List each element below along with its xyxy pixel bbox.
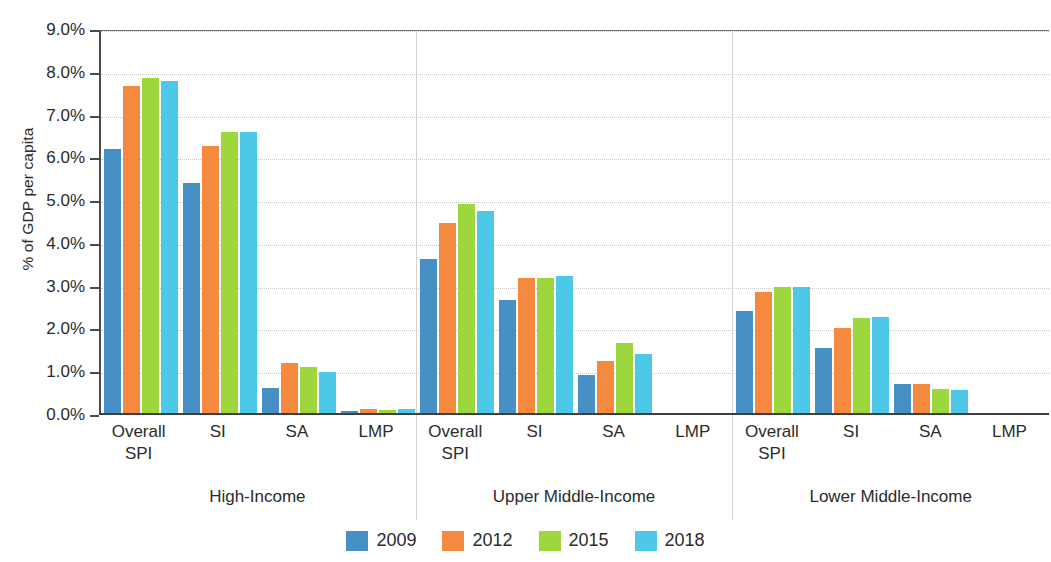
x-label-supergroup: OverallSPISISALMP <box>732 420 1049 468</box>
bar-category-overall-spi <box>417 31 496 415</box>
bar[interactable] <box>537 278 554 415</box>
bar[interactable] <box>635 354 652 415</box>
x-axis-label: LMP <box>970 420 1049 468</box>
bar[interactable] <box>853 318 870 415</box>
bar[interactable] <box>913 384 930 415</box>
bar[interactable] <box>458 204 475 415</box>
bar[interactable] <box>578 375 595 415</box>
bar[interactable] <box>894 384 911 415</box>
x-axis-label: SA <box>574 420 653 468</box>
y-axis-tick-mark <box>90 372 99 374</box>
y-axis-tick-label: 8.0% <box>0 63 85 83</box>
bar-category-overall-spi <box>101 31 180 415</box>
bar[interactable] <box>221 132 238 415</box>
bar[interactable] <box>439 223 456 416</box>
x-axis-label: SI <box>495 420 574 468</box>
bar[interactable] <box>142 78 159 415</box>
y-axis-tick-mark <box>90 158 99 160</box>
y-axis-tick-label: 0.0% <box>0 405 85 425</box>
x-axis-group-labels: High-IncomeUpper Middle-IncomeLower Midd… <box>99 487 1049 513</box>
y-axis-tick-label: 9.0% <box>0 20 85 40</box>
legend-item[interactable]: 2015 <box>539 530 609 551</box>
x-axis-category-labels: OverallSPISISALMPOverallSPISISALMPOveral… <box>99 420 1049 468</box>
bar[interactable] <box>104 149 121 415</box>
bar-groups <box>101 31 1049 415</box>
bar-category-si <box>180 31 259 415</box>
bar[interactable] <box>616 343 633 415</box>
x-label-supergroup: OverallSPISISALMP <box>99 420 416 468</box>
y-axis-tick-label: 6.0% <box>0 148 85 168</box>
y-axis-tick-label: 5.0% <box>0 191 85 211</box>
plot-inner <box>101 31 1049 415</box>
x-axis-label-line1: SI <box>812 421 891 443</box>
bar-supergroup <box>417 31 733 415</box>
bar-supergroup <box>101 31 417 415</box>
y-axis-tick-label: 2.0% <box>0 319 85 339</box>
bar[interactable] <box>262 388 279 415</box>
bar-category-lmp <box>654 31 733 415</box>
y-axis-tick-mark <box>90 415 99 417</box>
bar[interactable] <box>499 300 516 415</box>
bar[interactable] <box>123 86 140 415</box>
x-axis-label: SI <box>178 420 257 468</box>
y-axis-tick-mark <box>90 116 99 118</box>
legend-label: 2015 <box>569 530 609 551</box>
x-axis-label: LMP <box>337 420 416 468</box>
bar-category-lmp <box>338 31 417 415</box>
bar[interactable] <box>556 276 573 415</box>
x-axis-label-line1: SI <box>178 421 257 443</box>
bar[interactable] <box>477 211 494 415</box>
legend-item[interactable]: 2012 <box>442 530 512 551</box>
bar-supergroup <box>733 31 1049 415</box>
bar[interactable] <box>815 348 832 415</box>
bar[interactable] <box>755 292 772 415</box>
x-axis-baseline <box>99 413 1049 415</box>
bar[interactable] <box>161 81 178 415</box>
bar[interactable] <box>951 390 968 415</box>
x-axis-label: OverallSPI <box>732 420 811 468</box>
x-axis-label: OverallSPI <box>99 420 178 468</box>
y-axis-tick-mark <box>90 329 99 331</box>
bar[interactable] <box>240 132 257 415</box>
chart-legend: 2009201220152018 <box>0 530 1051 551</box>
x-axis-label-line1: SA <box>257 421 336 443</box>
legend-swatch-icon <box>442 531 464 551</box>
x-axis-label-line1: LMP <box>337 421 416 443</box>
legend-label: 2009 <box>376 530 416 551</box>
x-label-supergroup: OverallSPISISALMP <box>416 420 733 468</box>
bar-category-sa <box>891 31 970 415</box>
bar[interactable] <box>300 367 317 415</box>
bar[interactable] <box>183 183 200 415</box>
bar[interactable] <box>793 287 810 415</box>
group-label: High-Income <box>99 487 416 513</box>
bar[interactable] <box>774 287 791 415</box>
bar[interactable] <box>597 361 614 415</box>
x-axis-label-line1: SI <box>495 421 574 443</box>
x-axis-label-line1: LMP <box>653 421 732 443</box>
bar[interactable] <box>872 317 889 415</box>
bar[interactable] <box>518 278 535 415</box>
bar[interactable] <box>319 372 336 415</box>
x-axis-label-line2: SPI <box>99 443 178 465</box>
x-axis-label: SI <box>812 420 891 468</box>
plot-area <box>99 30 1049 415</box>
legend-item[interactable]: 2009 <box>346 530 416 551</box>
bar[interactable] <box>736 311 753 415</box>
bar[interactable] <box>202 146 219 416</box>
y-axis-tick-label: 1.0% <box>0 362 85 382</box>
legend-swatch-icon <box>346 531 368 551</box>
bar[interactable] <box>932 389 949 415</box>
x-axis-label: LMP <box>653 420 732 468</box>
bar-category-overall-spi <box>733 31 812 415</box>
y-axis-tick-label: 3.0% <box>0 277 85 297</box>
x-axis-label: SA <box>257 420 336 468</box>
y-axis-tick-mark <box>90 73 99 75</box>
bar[interactable] <box>420 259 437 415</box>
bar[interactable] <box>834 328 851 415</box>
bar[interactable] <box>281 363 298 415</box>
x-axis-label-line1: Overall <box>416 421 495 443</box>
legend-swatch-icon <box>539 531 561 551</box>
y-axis-tick-mark <box>90 30 99 32</box>
legend-label: 2012 <box>472 530 512 551</box>
legend-item[interactable]: 2018 <box>635 530 705 551</box>
